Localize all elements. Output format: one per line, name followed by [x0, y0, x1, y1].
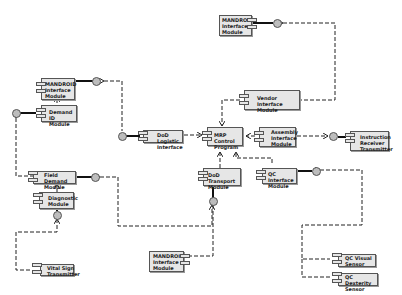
interface-lollipop [91, 173, 100, 182]
component-demand-id[interactable]: Demand ID Module [41, 105, 77, 122]
component-tab [33, 193, 43, 197]
component-assembly-interface[interactable]: Assembly Interface Module [259, 127, 296, 147]
component-tab [32, 263, 42, 267]
component-tab [256, 170, 266, 174]
component-mandroid-bottom[interactable]: MANDROID Interface Module [149, 251, 184, 272]
component-tab [254, 138, 264, 142]
connector-layer [0, 0, 402, 295]
component-vendor-interface[interactable]: Vendor Interface Module [244, 90, 300, 110]
component-tab [138, 137, 148, 141]
component-tab [332, 253, 342, 257]
component-tab [202, 131, 212, 135]
component-tab [247, 25, 257, 29]
component-qc-dexterity[interactable]: QC Dexterity Sensor [338, 273, 378, 286]
component-tab [36, 89, 46, 93]
component-tab [198, 177, 208, 181]
component-tab [28, 178, 38, 182]
component-instruction-receiver[interactable]: Instruction Receiver Transmitter [350, 131, 389, 151]
component-tab [254, 131, 264, 135]
interface-lollipop [12, 109, 21, 118]
interface-lollipop [92, 77, 101, 86]
component-tab [247, 18, 257, 22]
component-tab [345, 139, 355, 143]
component-tab [239, 94, 249, 98]
component-tab [138, 131, 148, 135]
interface-lollipop [53, 211, 62, 220]
component-tab [202, 137, 212, 141]
interface-lollipop [118, 132, 127, 141]
interface-lollipop [312, 167, 321, 176]
component-mandroid-top-left[interactable]: MANDROID Interface Module [41, 78, 75, 100]
component-tab [332, 279, 342, 283]
component-vital-sign[interactable]: Vital Sign Transmitter [40, 264, 74, 276]
component-tab [256, 176, 266, 180]
component-dod-logistic[interactable]: DoD Logistic Interface [143, 130, 183, 143]
component-tab [28, 171, 38, 175]
component-tab [180, 254, 190, 258]
component-tab [180, 261, 190, 265]
component-tab [32, 270, 42, 274]
interface-lollipop [329, 132, 338, 141]
component-tab [36, 82, 46, 86]
component-diagnostic[interactable]: Diagnostic Module [39, 192, 74, 209]
component-field-demand[interactable]: Field Demand Module [33, 171, 76, 184]
component-tab [198, 171, 208, 175]
component-tab [345, 133, 355, 137]
component-tab [36, 114, 46, 118]
component-tab [332, 272, 342, 276]
component-tab [332, 260, 342, 264]
component-tab [239, 101, 249, 105]
component-tab [33, 200, 43, 204]
component-qc-interface[interactable]: QC Interface Module [262, 168, 297, 184]
component-tab [36, 108, 46, 112]
interface-lollipop [273, 19, 282, 28]
component-qc-visual[interactable]: QC Visual Sensor [338, 254, 376, 267]
interface-lollipop [209, 197, 218, 206]
component-dod-transport[interactable]: DoD Transport Module [203, 168, 241, 186]
component-mrp-control[interactable]: MRP Control Program [207, 127, 243, 146]
